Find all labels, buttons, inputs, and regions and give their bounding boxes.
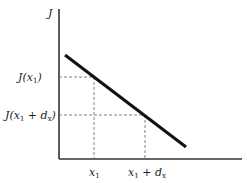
tick-label-jx1: J(x1) xyxy=(16,71,42,85)
tick-label-x1: x1 xyxy=(89,166,100,180)
tick-label-x1dx: x1 + dx xyxy=(128,166,166,180)
y-axis-label: J xyxy=(46,7,53,20)
cost-function-diagram: J J(x1) J(x1 + dx) x1 x1 + dx xyxy=(0,0,247,183)
function-line xyxy=(65,55,186,147)
tick-label-jx1dx: J(x1 + dx) xyxy=(3,109,56,123)
